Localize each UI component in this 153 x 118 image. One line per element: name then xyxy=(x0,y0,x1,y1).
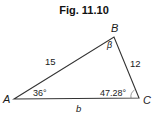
angle-c-label: 47.28° xyxy=(100,88,127,98)
vertex-b-label: B xyxy=(111,22,118,34)
angle-b-label: β xyxy=(106,40,112,50)
vertex-c-label: C xyxy=(143,94,151,106)
vertex-a-label: A xyxy=(2,93,10,105)
side-ac-label: b xyxy=(76,103,81,114)
side-ab-label: 15 xyxy=(45,56,56,67)
figure-title: Fig. 11.10 xyxy=(59,4,109,16)
angle-a-label: 36° xyxy=(33,88,47,98)
side-bc-label: 12 xyxy=(130,58,141,69)
angle-c-arc xyxy=(131,90,135,98)
triangle-figure: Fig. 11.10 A B C 15 12 b 36° β 47.28° xyxy=(0,0,153,118)
